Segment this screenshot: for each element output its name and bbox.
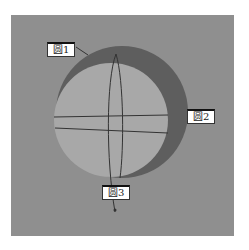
label-circle3: 圆3	[102, 185, 130, 200]
label-circle2: 圆2	[187, 109, 215, 124]
sphere-face	[54, 63, 168, 177]
label1-leader-line	[76, 47, 88, 55]
sphere-diagram	[0, 0, 249, 250]
label-circle1: 圆1	[47, 42, 75, 57]
pole-point	[114, 209, 117, 212]
